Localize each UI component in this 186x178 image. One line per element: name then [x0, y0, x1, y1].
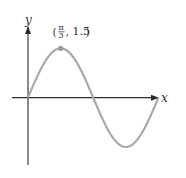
x-axis-label: x — [161, 91, 168, 105]
annotation-open-paren: ( — [53, 26, 57, 39]
annotation-close-paren: ) — [86, 26, 90, 39]
annotation-denominator: 3 — [59, 31, 64, 40]
peak-point — [58, 46, 63, 51]
y-axis-label: y — [24, 13, 32, 27]
chart: x y (π3, 1.5) — [0, 0, 186, 178]
annotation-label: (π3, 1.5) — [53, 23, 91, 40]
